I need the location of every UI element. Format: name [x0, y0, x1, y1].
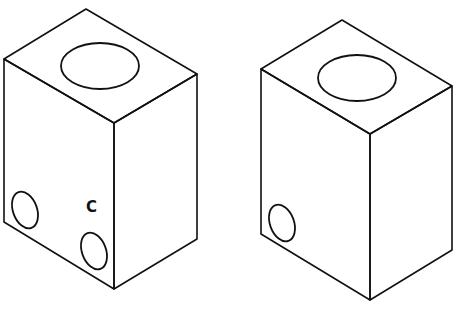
right-block-top-face — [261, 20, 452, 134]
left-block-top-hole — [61, 43, 139, 89]
left-block-side-hole-2 — [76, 229, 112, 273]
left-block-top-face — [4, 9, 197, 123]
right-block — [261, 20, 452, 300]
left-block — [4, 9, 197, 289]
left-block-left-face — [4, 59, 114, 289]
right-block-top-hole — [318, 55, 396, 101]
right-block-right-face — [370, 86, 452, 300]
isometric-diagram — [0, 0, 459, 319]
left-block-side-hole-1 — [7, 188, 43, 232]
left-block-right-face — [114, 74, 197, 289]
right-block-left-face — [261, 69, 370, 300]
hole-label-c: C — [86, 200, 97, 215]
